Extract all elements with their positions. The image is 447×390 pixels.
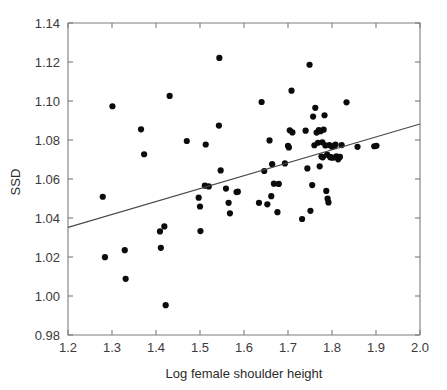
scatter-plot-figure: 1.21.31.41.51.61.71.81.92.0 0.981.001.02… — [0, 0, 447, 390]
scatter-point — [303, 128, 309, 134]
scatter-point — [332, 142, 338, 148]
scatter-point — [141, 151, 147, 157]
scatter-point — [310, 114, 316, 120]
scatter-point — [102, 254, 108, 260]
x-tick-label: 1.9 — [367, 340, 385, 355]
scatter-point — [354, 144, 360, 150]
scatter-point — [323, 188, 329, 194]
scatter-point — [161, 223, 167, 229]
scatter-point — [226, 200, 232, 206]
scatter-point — [235, 189, 241, 195]
scatter-point — [256, 200, 262, 206]
x-axis-title: Log female shoulder height — [166, 366, 323, 381]
scatter-point — [288, 88, 294, 94]
scatter-point — [321, 112, 327, 118]
x-tick-label: 1.4 — [147, 340, 165, 355]
x-tick-label: 2.0 — [411, 340, 429, 355]
x-axis-ticks — [68, 23, 420, 335]
scatter-point — [109, 103, 115, 109]
y-tick-label: 1.00 — [35, 289, 60, 304]
plot-canvas: 1.21.31.41.51.61.71.81.92.0 0.981.001.02… — [0, 0, 447, 390]
x-tick-label: 1.6 — [235, 340, 253, 355]
scatter-point — [266, 137, 272, 143]
y-tick-label: 1.04 — [35, 211, 60, 226]
scatter-point — [223, 185, 229, 191]
scatter-point — [163, 302, 169, 308]
axis-box-top-right — [68, 23, 420, 335]
x-tick-label: 1.7 — [279, 340, 297, 355]
x-tick-label: 1.3 — [103, 340, 121, 355]
y-tick-label: 1.10 — [35, 94, 60, 109]
scatter-point — [268, 193, 274, 199]
scatter-point — [306, 62, 312, 68]
y-tick-label: 0.98 — [35, 328, 60, 343]
x-tick-label: 1.5 — [191, 340, 209, 355]
scatter-point — [343, 99, 349, 105]
scatter-point — [157, 228, 163, 234]
data-points — [100, 55, 380, 308]
scatter-point — [167, 93, 173, 99]
scatter-point — [276, 181, 282, 187]
scatter-point — [216, 55, 222, 61]
scatter-point — [299, 216, 305, 222]
scatter-point — [274, 209, 280, 215]
x-axis-tick-labels: 1.21.31.41.51.61.71.81.92.0 — [59, 340, 429, 355]
axis-box — [68, 23, 420, 335]
scatter-point — [264, 201, 270, 207]
scatter-point — [337, 154, 343, 160]
scatter-point — [197, 228, 203, 234]
y-tick-label: 1.08 — [35, 133, 60, 148]
scatter-point — [307, 208, 313, 214]
scatter-point — [317, 163, 323, 169]
regression-line — [68, 124, 420, 227]
x-tick-label: 1.2 — [59, 340, 77, 355]
scatter-point — [304, 165, 310, 171]
x-tick-label: 1.8 — [323, 340, 341, 355]
scatter-point — [216, 122, 222, 128]
y-axis-ticks — [68, 23, 420, 335]
scatter-point — [325, 199, 331, 205]
scatter-point — [312, 105, 318, 111]
scatter-point — [289, 129, 295, 135]
scatter-point — [286, 144, 292, 150]
scatter-point — [100, 194, 106, 200]
scatter-point — [158, 245, 164, 251]
scatter-point — [184, 138, 190, 144]
y-axis-title: SSD — [8, 169, 23, 196]
axis-frame — [68, 23, 420, 335]
scatter-point — [138, 126, 144, 132]
y-tick-label: 1.14 — [35, 16, 60, 31]
scatter-point — [122, 247, 128, 253]
scatter-point — [197, 203, 203, 209]
scatter-point — [373, 143, 379, 149]
scatter-point — [321, 127, 327, 133]
scatter-point — [218, 167, 224, 173]
y-tick-label: 1.06 — [35, 172, 60, 187]
scatter-point — [123, 276, 129, 282]
y-tick-label: 1.02 — [35, 250, 60, 265]
scatter-point — [196, 195, 202, 201]
scatter-point — [203, 141, 209, 147]
y-tick-label: 1.12 — [35, 55, 60, 70]
scatter-point — [259, 99, 265, 105]
scatter-point — [309, 182, 315, 188]
scatter-point — [227, 210, 233, 216]
y-axis-tick-labels: 0.981.001.021.041.061.081.101.121.14 — [35, 16, 60, 343]
